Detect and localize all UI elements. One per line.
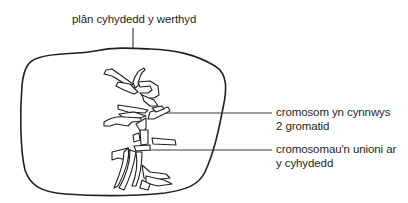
label-equatorial-plane: plân cyhydedd y werthyd <box>72 13 196 27</box>
label-equatorial-plane-text: plân cyhydedd y werthyd <box>72 13 196 27</box>
label-aligned-line1: cromosomau'n unioni ar <box>276 143 396 157</box>
chromosomes <box>104 68 176 190</box>
label-aligned-line2: y cyhydedd <box>276 157 396 171</box>
label-chromosome-two-chromatids: cromosom yn cynnwys 2 gromatid <box>276 106 390 133</box>
label-chromosomes-aligned: cromosomau'n unioni ar y cyhydedd <box>276 143 396 170</box>
cell-diagram <box>0 0 408 203</box>
label-chromosome-line1: cromosom yn cynnwys <box>276 106 390 120</box>
label-chromosome-line2: 2 gromatid <box>276 120 390 134</box>
